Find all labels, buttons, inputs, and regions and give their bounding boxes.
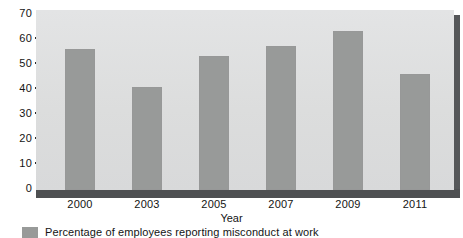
plot-3d-bottom-face xyxy=(36,189,460,198)
y-tick-label: 10 xyxy=(19,158,32,169)
x-tick-label-5: 2011 xyxy=(390,198,440,210)
chart-legend: Percentage of employees reporting miscon… xyxy=(22,226,319,238)
y-tick-label: 0 xyxy=(26,183,32,194)
legend-swatch-icon xyxy=(22,227,38,238)
y-tick-label: 40 xyxy=(19,83,32,94)
x-tick-label-1: 2003 xyxy=(122,198,172,210)
plot-3d-right-face xyxy=(454,15,460,198)
x-tick-label-2: 2005 xyxy=(189,198,239,210)
bar-2007[interactable] xyxy=(266,46,296,190)
y-tick-label: 70 xyxy=(19,8,32,19)
y-tick-label: 50 xyxy=(19,58,32,69)
plot-area xyxy=(36,10,454,190)
bar-2005[interactable] xyxy=(199,56,229,190)
bar-2011[interactable] xyxy=(400,74,430,190)
bars-layer xyxy=(36,10,454,190)
x-tick-label-0: 2000 xyxy=(55,198,105,210)
x-axis-title: Year xyxy=(0,212,463,224)
bar-2003[interactable] xyxy=(132,87,162,190)
bar-2000[interactable] xyxy=(65,49,95,190)
x-tick-label-4: 2009 xyxy=(323,198,373,210)
y-tick-label: 60 xyxy=(19,33,32,44)
bar-2009[interactable] xyxy=(333,31,363,190)
y-tick-label: 30 xyxy=(19,108,32,119)
bar-chart: 70 60 50 40 30 20 10 0 xyxy=(0,0,463,238)
x-tick-label-3: 2007 xyxy=(256,198,306,210)
legend-label: Percentage of employees reporting miscon… xyxy=(45,226,319,238)
y-tick-label: 20 xyxy=(19,133,32,144)
plot-area-shell xyxy=(36,10,460,198)
